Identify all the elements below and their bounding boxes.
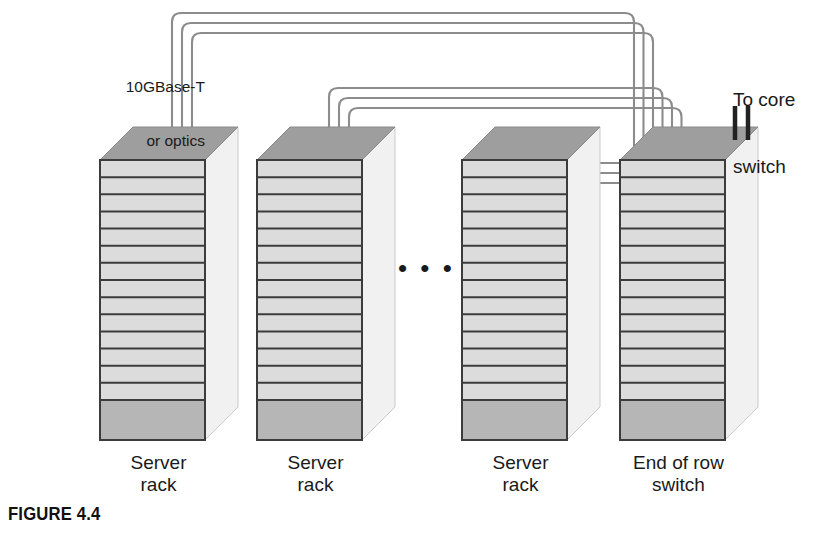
cable-type-line-2: or optics <box>60 132 205 150</box>
rack-label-2: Serverrack <box>241 452 391 497</box>
rack-base-block <box>620 400 725 440</box>
cable-type-label: 10GBase-T or optics <box>60 41 205 187</box>
core-switch-line-2: switch <box>733 156 828 178</box>
rack-label-line-1: Server <box>84 452 234 474</box>
rack-label-line-1: Server <box>241 452 391 474</box>
rack-2-server <box>257 127 395 440</box>
core-switch-label: To core switch <box>733 44 828 223</box>
rack-label-line-2: rack <box>84 474 234 496</box>
cable-type-line-1: 10GBase-T <box>60 78 205 96</box>
rack-3-server <box>462 127 600 440</box>
figure-canvas: 10GBase-T or optics To core switch • • •… <box>0 0 828 537</box>
figure-caption: FIGURE 4.4 <box>8 503 100 525</box>
rack-label-4: End of rowswitch <box>604 452 754 497</box>
ellipsis-continuation: • • • <box>398 253 455 284</box>
rack-front-panel <box>257 160 362 440</box>
rack-front-panel <box>100 160 205 440</box>
rack-base-block <box>257 400 362 440</box>
rack-front-panel <box>462 160 567 440</box>
rack-label-line-2: switch <box>604 474 754 496</box>
rack-label-line-2: rack <box>446 474 596 496</box>
rack-base-block <box>462 400 567 440</box>
rack-label-line-1: Server <box>446 452 596 474</box>
core-switch-line-1: To core <box>733 89 828 111</box>
rack-base-block <box>100 400 205 440</box>
rack-label-1: Serverrack <box>84 452 234 497</box>
rack-label-3: Serverrack <box>446 452 596 497</box>
rack-front-panel <box>620 160 725 440</box>
rack-side-face <box>362 127 395 440</box>
rack-side-face <box>567 127 600 440</box>
rack-label-line-1: End of row <box>604 452 754 474</box>
rack-label-line-2: rack <box>241 474 391 496</box>
rack-side-face <box>205 127 238 440</box>
